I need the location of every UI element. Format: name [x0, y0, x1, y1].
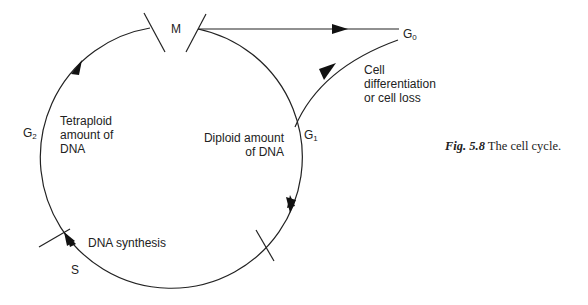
g0-subscript: 0 — [412, 33, 416, 42]
tetraploid-line-3: DNA — [60, 142, 113, 156]
g2-arrowhead — [71, 60, 82, 75]
differentiation-annotation: Cell differentiation or cell loss — [364, 63, 436, 105]
g0-letter: G — [403, 27, 412, 41]
m-phase-tick-right — [186, 14, 206, 52]
g2-letter: G — [23, 126, 32, 140]
phase-label-g2: G2 — [23, 126, 37, 144]
phase-label-m: M — [171, 22, 181, 36]
diploid-line-2: of DNA — [200, 145, 284, 159]
g1-letter: G — [304, 128, 313, 142]
phase-label-g0: G0 — [403, 27, 417, 45]
g1-s-boundary-tick — [256, 230, 274, 261]
figure-number: Fig. 5.8 — [445, 139, 485, 153]
phase-label-s: S — [71, 263, 79, 277]
g0-to-g1-arrowhead — [319, 63, 336, 80]
differentiation-line-1: Cell — [364, 63, 436, 77]
tetraploid-line-2: amount of — [60, 128, 113, 142]
m-to-g0-arrowhead — [332, 24, 348, 34]
differentiation-line-3: or cell loss — [364, 91, 436, 105]
dna-synthesis-annotation: DNA synthesis — [88, 236, 166, 250]
diploid-annotation: Diploid amount of DNA — [200, 131, 284, 159]
phase-label-g1: G1 — [304, 128, 318, 146]
figure-caption-text: The cell cycle. — [488, 139, 561, 153]
g1-subscript: 1 — [313, 134, 317, 143]
g2-subscript: 2 — [32, 132, 36, 141]
figure-caption: Fig. 5.8 The cell cycle. — [445, 139, 561, 154]
diploid-line-1: Diploid amount — [200, 131, 284, 145]
tetraploid-line-1: Tetraploid — [60, 114, 113, 128]
m-phase-tick-left — [144, 13, 165, 52]
tetraploid-annotation: Tetraploid amount of DNA — [60, 114, 113, 156]
differentiation-line-2: differentiation — [364, 77, 436, 91]
